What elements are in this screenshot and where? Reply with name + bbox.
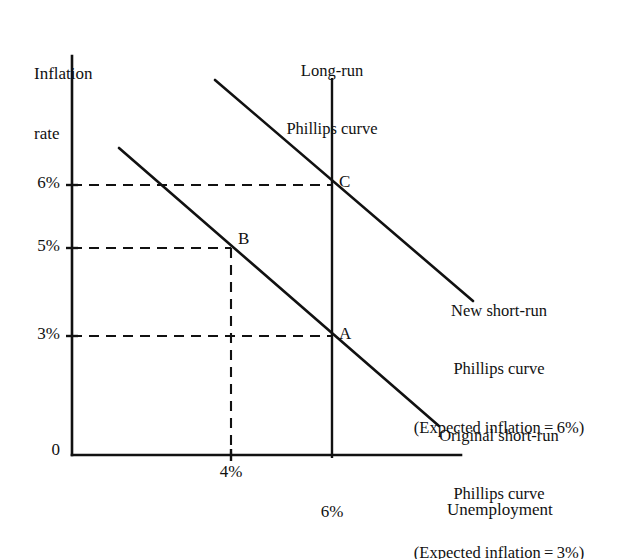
y-tick-label-5-percent: 5% [8,236,60,256]
new-short-run-label-line-1: New short-run [379,301,619,320]
y-tick-label-3-percent: 3% [8,324,60,344]
original-short-run-label-line-2: Phillips curve [376,484,622,503]
x-tick-label-6-percent: 6% (Natural rate) [297,462,367,559]
point-label-a: A [339,324,363,344]
x-tick-label-6-percent-value: 6% [297,502,367,522]
original-short-run-label-line-3: (Expected inflation = 3%) [376,543,622,559]
long-run-phillips-curve-label: Long-run Phillips curve [247,22,417,178]
phillips-curve-figure: Inflation rate Unemployment rate 0 6% 5%… [0,0,628,559]
point-label-b: B [238,229,262,249]
y-axis-title-line-2: rate [34,124,164,144]
new-short-run-label-line-2: Phillips curve [379,359,619,378]
y-tick-label-6-percent: 6% [8,173,60,193]
y-axis-title-line-1: Inflation [34,64,164,84]
x-tick-label-4-percent: 4% [196,462,266,482]
y-axis-title: Inflation rate [34,24,164,184]
original-short-run-phillips-curve-label: Original short-run Phillips curve (Expec… [376,387,622,559]
original-short-run-label-line-1: Original short-run [376,426,622,445]
long-run-label-line-1: Long-run [247,61,417,80]
origin-label: 0 [26,440,60,460]
long-run-label-line-2: Phillips curve [247,119,417,138]
